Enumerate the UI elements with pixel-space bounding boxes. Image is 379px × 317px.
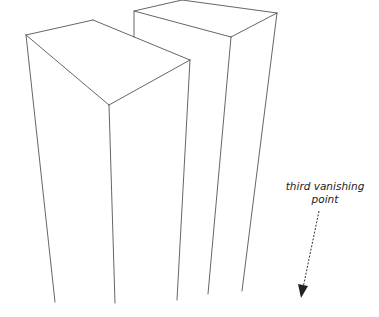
label-line-2: point xyxy=(280,193,370,206)
vanishing-point-label: third vanishing point xyxy=(280,180,370,206)
left-box xyxy=(26,20,190,303)
right-box xyxy=(134,0,277,294)
perspective-diagram: third vanishing point xyxy=(0,0,379,317)
boxes-drawing xyxy=(0,0,379,317)
label-line-1: third vanishing xyxy=(280,180,370,193)
vanishing-arrow xyxy=(298,211,319,298)
arrowhead-icon xyxy=(298,284,308,298)
